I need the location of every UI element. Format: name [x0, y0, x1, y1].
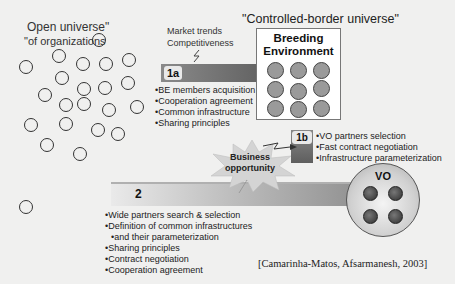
vo-member-circle: [363, 186, 378, 201]
phase-2-item: Sharing principles: [105, 243, 252, 254]
be-member-circle: [267, 100, 284, 117]
controlled-universe-title: "Controlled-border universe": [242, 12, 399, 26]
breeding-environment-box: Breeding Environment: [256, 28, 341, 120]
organization-circle: [19, 200, 33, 214]
open-universe-title: Open universe": [27, 21, 109, 34]
phase-2-item-continued: and their parameterization: [105, 232, 252, 243]
phase-1a-item: BE members acquisition: [155, 85, 255, 96]
organization-circle: [111, 127, 125, 141]
market-trends-label: Market trends: [167, 25, 234, 37]
opportunity-label: opportunity: [222, 163, 278, 174]
be-member-circle: [290, 83, 307, 100]
be-member-circle: [313, 80, 330, 97]
breeding-environment-title: Breeding Environment: [257, 32, 340, 58]
vo-member-circle: [388, 186, 403, 201]
be-member-circle: [313, 62, 330, 79]
lightning-bolt-icon: [190, 49, 204, 63]
phase-1b-item: Fast contract negotiation: [316, 142, 442, 153]
be-member-circle: [290, 101, 307, 118]
phase-1a-list: BE members acquisition Cooperation agree…: [155, 85, 255, 129]
organization-circle: [59, 117, 73, 131]
phase-2-list: Wide partners search & selection Definit…: [105, 210, 252, 276]
organization-circle: [122, 53, 136, 67]
organization-circle: [77, 97, 91, 111]
phase-1b-list: VO partners selection Fast contract nego…: [316, 131, 442, 164]
organization-circle: [121, 76, 135, 90]
be-title-line2: Environment: [257, 45, 340, 58]
organization-circle: [55, 71, 69, 85]
phase-1a-badge: 1a: [164, 66, 182, 80]
phase-2-item: Contract negotiation: [105, 254, 252, 265]
phase-2-item: Cooperation agreement: [105, 265, 252, 276]
market-drivers: Market trends Competitiveness: [167, 25, 234, 49]
be-member-circle: [267, 81, 284, 98]
organization-circle: [38, 88, 52, 102]
organization-circle: [73, 147, 87, 161]
organization-circle: [40, 138, 54, 152]
be-title-line1: Breeding: [257, 32, 340, 45]
be-member-circle: [267, 62, 284, 79]
phase-1a-item: Cooperation agreement: [155, 96, 255, 107]
organization-circle: [91, 123, 105, 137]
phase-1b-item: VO partners selection: [316, 131, 442, 142]
citation: [Camarinha-Matos, Afsarmanesh, 2003]: [258, 258, 427, 269]
phase-1a-item: Common infrastructure: [155, 107, 255, 118]
organization-circle: [76, 57, 90, 71]
organization-circle: [59, 98, 73, 112]
vo-member-circle: [388, 209, 403, 224]
vo-label: VO: [347, 170, 419, 182]
organization-circle: [102, 103, 116, 117]
organization-circle: [99, 57, 113, 71]
diagram-canvas: Open universe" "of organizations "Contro…: [0, 0, 455, 284]
lightning-arrow-icon: [262, 140, 298, 156]
competitiveness-label: Competitiveness: [167, 37, 234, 49]
phase-1a-item: Sharing principles: [155, 118, 255, 129]
organization-circle: [19, 60, 33, 74]
vo-member-circle: [363, 209, 378, 224]
phase-2-badge: 2: [135, 187, 142, 201]
organization-circle: [77, 82, 91, 96]
phase-2-item: Wide partners search & selection: [105, 210, 252, 221]
phase-2-item-text: and their parameterization: [114, 232, 219, 242]
organization-circle: [52, 49, 66, 63]
be-member-circle: [313, 100, 330, 117]
organization-circle: [130, 100, 144, 114]
phase-2-item: Definition of common infrastructures: [105, 221, 252, 232]
organization-circle: [98, 81, 112, 95]
organization-circle: [92, 33, 106, 47]
organization-circle: [24, 118, 38, 132]
be-member-circle: [290, 62, 307, 79]
virtual-organization-circle: VO: [346, 163, 420, 237]
